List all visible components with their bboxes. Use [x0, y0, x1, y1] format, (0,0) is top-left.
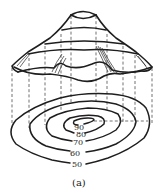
contour-label-60: 60: [70, 149, 80, 158]
contour-label-70: 70: [73, 138, 83, 147]
figure-caption: (a): [72, 177, 86, 188]
contour-labels: 90 80 70 60 50: [70, 123, 86, 169]
contour-label-50: 50: [72, 160, 82, 169]
hill-3d: [12, 12, 152, 82]
hill-contour-diagram: 90 80 70 60 50 (a): [0, 0, 162, 196]
